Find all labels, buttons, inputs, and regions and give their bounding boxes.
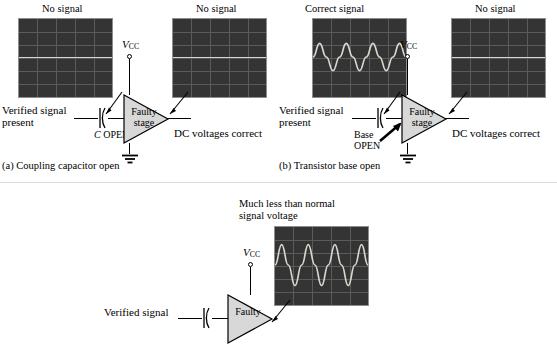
panel-c-output-scope-label-line2: signal voltage [239, 210, 298, 222]
panel-c-input-wire-right [212, 318, 228, 319]
panel-c-input-wire-left [178, 318, 202, 319]
panel-a-input-wire-right [108, 118, 124, 119]
panel-b-input-oscilloscope [312, 18, 407, 98]
scope-trace-sine [313, 19, 406, 97]
scope-trace-sine [275, 227, 368, 305]
panel-c-amplifier-label-line1: Faulty [231, 307, 265, 318]
panel-b-ground-symbol [399, 152, 417, 170]
panel-c-supply-label-sub: CC [250, 250, 260, 259]
panel-b-supply-label-sub: CC [407, 42, 417, 51]
panel-b-input-wire-right [386, 118, 402, 119]
panel-b-supply-wire [407, 59, 408, 95]
panel-a-ground-symbol [121, 152, 139, 170]
panel-a-output-oscilloscope [172, 18, 267, 98]
panel-b-output-wire [445, 118, 469, 119]
panel-divider [0, 182, 557, 183]
panel-c-supply-label-v: V [243, 246, 250, 258]
panel-a-input-scope-label: No signal [42, 3, 83, 15]
panel-b-amplifier-label: Faulty stage [405, 107, 439, 128]
panel-b-output-scope-label: No signal [475, 3, 516, 15]
panel-a-amplifier-label-line2: stage [127, 118, 161, 129]
panel-b-fault-label-line1: Base [354, 129, 373, 140]
scope-trace-flat [452, 57, 545, 58]
panel-b-output-note: DC voltages correct [452, 127, 540, 139]
panel-a-input-oscilloscope [18, 18, 113, 98]
panel-b-input-wire-left [352, 118, 376, 119]
panel-b-caption: (b) Transistor base open [279, 160, 380, 172]
panel-a-amplifier-symbol: Faulty stage [123, 94, 169, 144]
panel-a-supply-label: VCC [122, 38, 139, 52]
panel-b-source-label-line1: Verified signal [279, 104, 343, 116]
panel-a-output-wire [167, 118, 191, 119]
panel-a-source-label-line1: Verified signal [2, 104, 66, 116]
panel-c-supply-wire [250, 267, 251, 295]
panel-a-source-label-line2: present [2, 116, 34, 128]
panel-a-amplifier-label: Faulty stage [127, 107, 161, 128]
panel-a-output-scope-label: No signal [196, 3, 237, 15]
panel-a-amplifier-label-line1: Faulty [127, 107, 161, 118]
scope-trace-flat [19, 57, 112, 58]
panel-c-amplifier-symbol: Faulty [227, 294, 273, 344]
panel-c-supply-label: VCC [243, 246, 260, 260]
panel-c-amplifier-label: Faulty [231, 307, 265, 318]
panel-b-supply-label-v: V [400, 38, 407, 50]
panel-c-coupling-capacitor-symbol [200, 307, 214, 333]
panel-b-supply-label: VCC [400, 38, 417, 52]
panel-a-input-wire-left [74, 118, 98, 119]
panel-a-fault-label-symbol: C [94, 129, 101, 140]
panel-a-supply-label-v: V [122, 38, 129, 50]
panel-a-supply-label-sub: CC [129, 42, 139, 51]
panel-b-amplifier-label-line2: stage [405, 118, 439, 129]
panel-a-output-note: DC voltages correct [174, 127, 262, 139]
panel-c-source-label: Verified signal [104, 306, 168, 318]
panel-c-output-scope-label-line1: Much less than normal [239, 198, 335, 210]
panel-c-output-oscilloscope [274, 226, 369, 306]
panel-b-source-label-line2: present [279, 116, 311, 128]
panel-b-amplifier-symbol: Faulty stage [401, 94, 447, 144]
scope-trace-flat [173, 57, 266, 58]
panel-a-supply-wire [129, 59, 130, 95]
panel-a-caption: (a) Coupling capacitor open [2, 160, 120, 172]
panel-b-input-scope-label: Correct signal [305, 3, 364, 15]
panel-b-output-oscilloscope [451, 18, 546, 98]
panel-b-amplifier-label-line1: Faulty [405, 107, 439, 118]
panel-b-fault-label-line2: OPEN [354, 140, 380, 151]
